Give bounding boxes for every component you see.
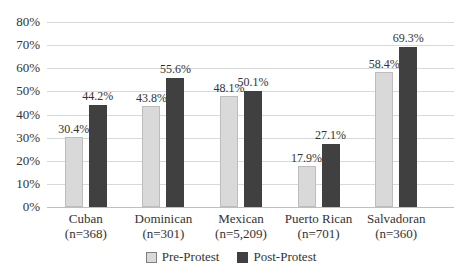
pre-protest-bar: 43.8% bbox=[142, 106, 160, 207]
y-axis-tick-label: 10% bbox=[0, 176, 40, 192]
legend-label: Pre-Protest bbox=[162, 249, 220, 265]
legend-swatch-icon bbox=[146, 252, 157, 263]
category-name: Salvadoran bbox=[357, 212, 435, 227]
category-label: Puerto Rican(n=701) bbox=[280, 212, 358, 241]
pre-protest-bar: 30.4% bbox=[65, 137, 83, 207]
post-protest-bar: 55.6% bbox=[166, 78, 184, 207]
y-axis-tick-label: 0% bbox=[0, 199, 40, 215]
bar-value-label: 50.1% bbox=[237, 75, 268, 90]
bar-value-label: 55.6% bbox=[160, 62, 191, 77]
bar-group: 17.9%27.1% bbox=[280, 22, 358, 207]
bar-value-label: 43.8% bbox=[136, 91, 167, 106]
category-sample-size: (n=301) bbox=[125, 227, 203, 242]
legend-swatch-icon bbox=[237, 252, 248, 263]
bar-value-label: 58.4% bbox=[369, 57, 400, 72]
bar-group: 43.8%55.6% bbox=[125, 22, 203, 207]
legend-item-post-protest: Post-Protest bbox=[237, 249, 316, 265]
category-label: Dominican(n=301) bbox=[125, 212, 203, 241]
category-name: Mexican bbox=[202, 212, 280, 227]
bar-groups: 30.4%44.2%43.8%55.6%48.1%50.1%17.9%27.1%… bbox=[47, 22, 435, 207]
y-axis-tick-label: 60% bbox=[0, 60, 40, 76]
category-sample-size: (n=701) bbox=[280, 227, 358, 242]
x-axis-line bbox=[47, 207, 454, 208]
category-axis: Cuban(n=368)Dominican(n=301)Mexican(n=5,… bbox=[47, 212, 435, 241]
pre-protest-bar: 17.9% bbox=[298, 166, 316, 207]
post-protest-bar: 44.2% bbox=[89, 105, 107, 207]
bar-value-label: 17.9% bbox=[291, 151, 322, 166]
bar-group: 58.4%69.3% bbox=[357, 22, 435, 207]
legend: Pre-ProtestPost-Protest bbox=[0, 249, 462, 265]
y-axis-tick-label: 20% bbox=[0, 153, 40, 169]
bar-value-label: 44.2% bbox=[82, 89, 113, 104]
bar-value-label: 27.1% bbox=[315, 128, 346, 143]
category-sample-size: (n=360) bbox=[357, 227, 435, 242]
y-axis-tick-label: 40% bbox=[0, 107, 40, 123]
category-sample-size: (n=368) bbox=[47, 227, 125, 242]
category-name: Puerto Rican bbox=[280, 212, 358, 227]
pre-protest-bar: 58.4% bbox=[375, 72, 393, 207]
post-protest-bar: 50.1% bbox=[244, 91, 262, 207]
bar-group: 30.4%44.2% bbox=[47, 22, 125, 207]
category-name: Dominican bbox=[125, 212, 203, 227]
category-label: Mexican(n=5,209) bbox=[202, 212, 280, 241]
pre-protest-bar: 48.1% bbox=[220, 96, 238, 207]
y-axis-tick-label: 70% bbox=[0, 37, 40, 53]
bar-group: 48.1%50.1% bbox=[202, 22, 280, 207]
category-label: Cuban(n=368) bbox=[47, 212, 125, 241]
y-axis-tick-label: 50% bbox=[0, 83, 40, 99]
y-axis-tick-label: 30% bbox=[0, 130, 40, 146]
category-name: Cuban bbox=[47, 212, 125, 227]
category-label: Salvadoran(n=360) bbox=[357, 212, 435, 241]
category-sample-size: (n=5,209) bbox=[202, 227, 280, 242]
bar-value-label: 30.4% bbox=[58, 122, 89, 137]
post-protest-bar: 69.3% bbox=[399, 47, 417, 207]
y-axis-tick-label: 80% bbox=[0, 14, 40, 30]
legend-label: Post-Protest bbox=[253, 249, 316, 265]
grouped-bar-chart: 80%70%60%50%40%30%20%10%0% 30.4%44.2%43.… bbox=[0, 0, 462, 275]
bar-value-label: 69.3% bbox=[393, 31, 424, 46]
post-protest-bar: 27.1% bbox=[322, 144, 340, 207]
legend-item-pre-protest: Pre-Protest bbox=[146, 249, 220, 265]
